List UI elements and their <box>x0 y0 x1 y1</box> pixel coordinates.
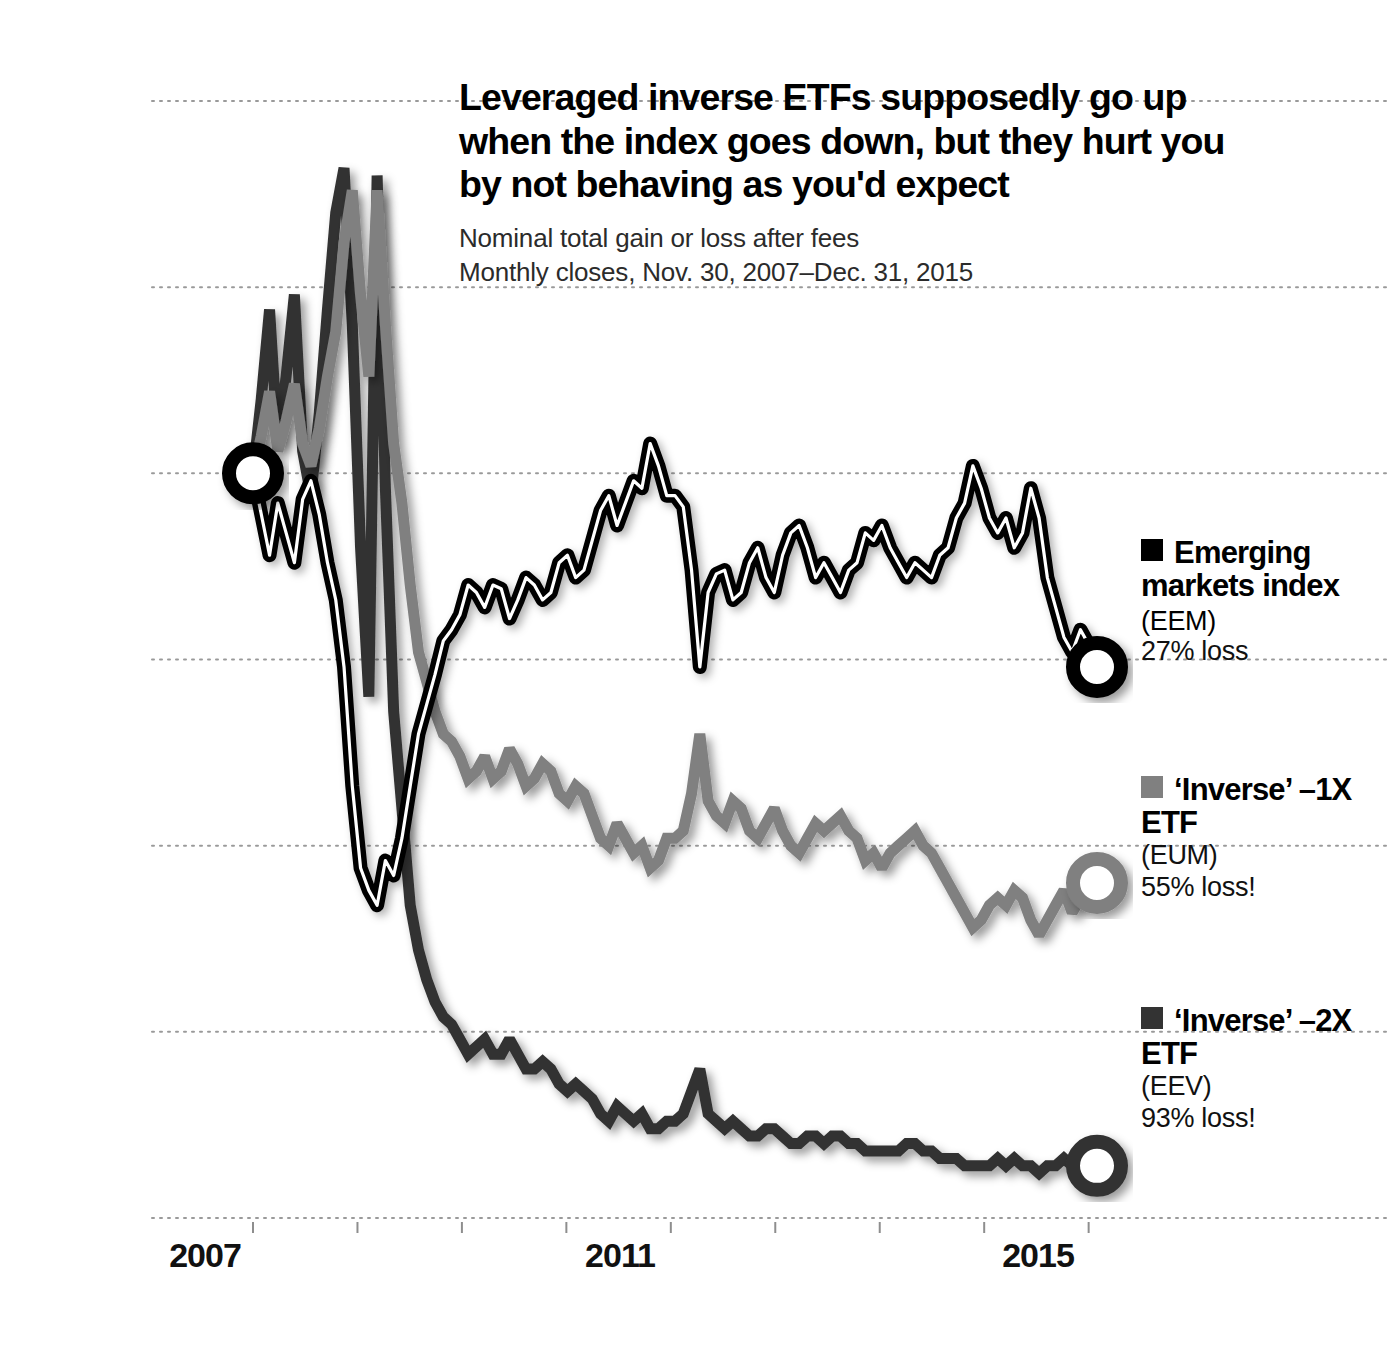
series-line-eev <box>253 168 1089 1173</box>
x-tick-2011: 2011 <box>585 1236 655 1275</box>
chart-subtitle: Nominal total gain or loss after fees Mo… <box>459 221 1259 290</box>
legend-label-eum: ‘Inverse’ –1X ETF <box>1141 773 1391 840</box>
subtitle-line-1: Nominal total gain or loss after fees <box>459 221 1259 255</box>
legend-swatch-eev <box>1141 1007 1163 1029</box>
legend-item-eev[interactable]: ‘Inverse’ –2X ETF (EEV) 93% loss! <box>1141 1004 1391 1135</box>
chart-page: $150 $125 $100 $75 $50 $25 $0 2007 2011 … <box>0 0 1395 1345</box>
legend-ticker-eev: (EEV) <box>1141 1071 1391 1103</box>
legend-item-eum[interactable]: ‘Inverse’ –1X ETF (EUM) 55% loss! <box>1141 773 1391 904</box>
legend-result-eev: 93% loss! <box>1141 1103 1391 1135</box>
legend-head-text-eem: Emerging markets index <box>1141 535 1339 603</box>
legend-result-eem: 27% loss <box>1141 636 1391 668</box>
legend-ticker-eem: (EEM) <box>1141 606 1216 636</box>
legend-label-eev: ‘Inverse’ –2X ETF <box>1141 1004 1391 1071</box>
chart-title: Leveraged inverse ETFs supposedly go up … <box>459 76 1259 207</box>
legend-swatch-eum <box>1141 776 1163 798</box>
legend-head-text-eum: ‘Inverse’ –1X ETF <box>1141 772 1351 840</box>
x-tick-2015: 2015 <box>1002 1236 1074 1275</box>
title-block: Leveraged inverse ETFs supposedly go up … <box>459 76 1259 289</box>
subtitle-line-2: Monthly closes, Nov. 30, 2007–Dec. 31, 2… <box>459 255 1259 289</box>
legend-swatch-eem <box>1141 539 1163 561</box>
legend-label-eem: Emerging markets index (EEM) <box>1141 536 1391 636</box>
legend-ticker-eum: (EUM) <box>1141 840 1391 872</box>
legend-head-text-eev: ‘Inverse’ –2X ETF <box>1141 1003 1351 1071</box>
legend-item-eem[interactable]: Emerging markets index (EEM) 27% loss <box>1141 536 1391 668</box>
x-tick-marks <box>253 1222 1089 1233</box>
x-tick-2007: 2007 <box>169 1236 241 1275</box>
legend-result-eum: 55% loss! <box>1141 872 1391 904</box>
